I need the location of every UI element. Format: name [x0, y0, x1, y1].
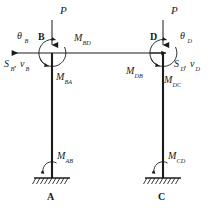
svg-text:θ: θ [17, 30, 22, 41]
svg-text:S: S [4, 58, 9, 69]
support-label-a: A [47, 191, 55, 202]
svg-text:M: M [167, 150, 177, 161]
svg-text:CD: CD [177, 157, 186, 164]
moment-label-ab: M AB [56, 150, 73, 164]
svg-text:DC: DC [172, 81, 182, 88]
svg-text:D: D [187, 37, 193, 44]
support-c-fixed [144, 178, 182, 184]
svg-text:v: v [20, 58, 25, 69]
rotation-label-theta-d: θ D [180, 30, 193, 44]
svg-text:θ: θ [180, 30, 185, 41]
joint-label-d: D [150, 31, 157, 42]
svg-text:M: M [163, 74, 173, 85]
svg-text:S: S [174, 58, 179, 69]
support-a-fixed [33, 178, 71, 184]
moment-label-cd: M CD [167, 150, 186, 164]
svg-text:M: M [55, 71, 65, 82]
moment-arc-cd [154, 162, 168, 170]
svg-text:BA: BA [65, 78, 73, 85]
svg-text:B: B [26, 65, 30, 72]
svg-text:M: M [125, 65, 135, 76]
svg-text:AB: AB [65, 157, 74, 164]
load-label-p-right: P [170, 4, 178, 16]
svg-text:,: , [184, 59, 186, 69]
load-label-p-left: P [59, 4, 67, 16]
rotation-label-theta-b: θ B [17, 30, 29, 44]
svg-text:DB: DB [134, 72, 143, 79]
svg-text:v: v [190, 58, 195, 69]
moment-label-ba: M BA [55, 71, 72, 85]
svg-text:M: M [73, 32, 83, 43]
svg-text:BD: BD [83, 39, 92, 46]
moment-arc-ab [43, 162, 57, 170]
moment-label-dc: M DC [163, 74, 182, 88]
frame-free-body-diagram: P P B D θ B θ D S B , v B S D , v D M BD… [0, 0, 215, 208]
shear-label-d: S D , v D [174, 58, 201, 72]
moment-label-db: M DB [125, 65, 143, 79]
shear-label-b: S B , v B [4, 58, 30, 72]
svg-text:M: M [56, 150, 66, 161]
joint-label-b: B [38, 31, 45, 42]
svg-text:D: D [195, 65, 201, 72]
svg-text:,: , [14, 59, 16, 69]
support-label-c: C [158, 191, 165, 202]
svg-text:B: B [25, 37, 29, 44]
moment-label-bd: M BD [73, 32, 91, 46]
